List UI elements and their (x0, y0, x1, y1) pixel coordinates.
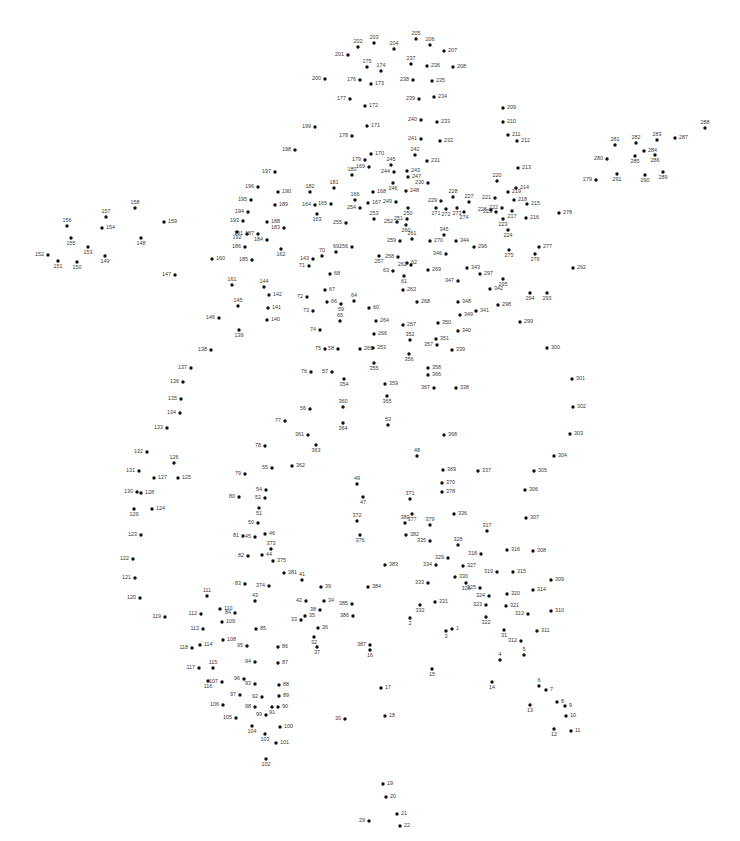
dot-marker (152, 476, 155, 479)
dot-number-label: 362 (296, 462, 305, 468)
dot-number-label: 220 (493, 172, 502, 178)
dot-number-label: 227 (465, 193, 474, 199)
dot-number-label: 80 (229, 493, 235, 499)
puzzle-dot: 133 (154, 424, 169, 430)
dot-number-label: 368 (448, 431, 457, 437)
puzzle-dot: 196 (245, 183, 260, 189)
dot-marker (454, 239, 457, 242)
dot-marker (303, 614, 306, 617)
dot-marker (571, 405, 574, 408)
puzzle-dot: 42 (296, 597, 308, 603)
dot-marker (374, 319, 377, 322)
puzzle-dot: 181 (330, 179, 339, 190)
dot-marker (220, 680, 223, 683)
puzzle-dot: 15 (429, 667, 435, 677)
dot-number-label: 113 (191, 625, 200, 631)
dot-number-label: 348 (462, 298, 471, 304)
dot-number-label: 203 (370, 34, 379, 40)
dot-marker (428, 239, 431, 242)
dot-number-label: 308 (537, 547, 546, 553)
puzzle-dot: 362 (290, 462, 305, 468)
dot-number-label: 363 (312, 447, 321, 453)
dot-number-label: 386 (340, 612, 349, 618)
dot-number-label: 261 (408, 230, 417, 236)
puzzle-dot: 302 (571, 403, 586, 409)
dot-marker (642, 149, 645, 152)
dot-number-label: 68 (334, 270, 340, 276)
dot-number-label: 342 (494, 285, 503, 291)
dot-marker (276, 190, 279, 193)
dot-number-label: 216 (530, 214, 539, 220)
dot-number-label: 337 (482, 467, 491, 473)
dot-marker (426, 268, 429, 271)
puzzle-dot: 18 (383, 712, 395, 718)
dot-marker (273, 170, 276, 173)
dot-number-label: 317 (483, 522, 492, 528)
dot-number-label: 381 (288, 569, 297, 575)
puzzle-dot: 275 (505, 248, 514, 258)
dot-marker (350, 134, 353, 137)
dot-marker (428, 43, 431, 46)
dot-number-label: 53 (385, 416, 391, 422)
puzzle-dot: 312 (508, 637, 523, 643)
puzzle-dot: 347 (445, 277, 460, 283)
puzzle-dot: 136 (170, 378, 185, 384)
puzzle-dot: 72 (297, 293, 309, 299)
dot-marker (433, 600, 436, 603)
dot-marker (249, 198, 252, 201)
dot-marker (430, 79, 433, 82)
dot-number-label: 382 (410, 531, 419, 537)
puzzle-dot: 308 (531, 547, 546, 553)
dot-number-label: 76 (301, 368, 307, 374)
dot-number-label: 355 (370, 365, 379, 371)
puzzle-dot: 328 (454, 536, 463, 547)
dot-marker (190, 646, 193, 649)
dot-number-label: 58 (328, 345, 334, 351)
dot-number-label: 268 (421, 298, 430, 304)
puzzle-dot: 31 (501, 628, 507, 638)
dot-marker (505, 592, 508, 595)
puzzle-dot: 34 (322, 597, 334, 603)
dot-marker (211, 666, 214, 669)
dot-marker (350, 602, 353, 605)
puzzle-dot: 83 (235, 580, 247, 586)
dot-marker (133, 576, 136, 579)
dot-number-label: 196 (245, 183, 254, 189)
puzzle-dot: 36 (316, 624, 328, 630)
dot-number-label: 306 (529, 486, 538, 492)
dot-number-label: 151 (54, 263, 63, 269)
puzzle-dot: 265 (358, 345, 373, 351)
dot-number-label: 349 (464, 311, 473, 317)
puzzle-dot: 85 (254, 625, 266, 631)
dot-number-label: 215 (531, 200, 540, 206)
dot-marker (456, 300, 459, 303)
dot-marker (453, 575, 456, 578)
puzzle-dot: 313 (515, 610, 530, 616)
dot-number-label: 303 (574, 430, 583, 436)
puzzle-dot: 17 (379, 684, 391, 690)
dot-number-label: 70 (319, 247, 325, 253)
puzzle-dot: 291 (613, 172, 622, 182)
dot-marker (350, 173, 353, 176)
puzzle-dot: 319 (484, 568, 499, 574)
dot-number-label: 198 (282, 146, 291, 152)
puzzle-dot: 361 (295, 431, 310, 437)
dot-marker (163, 615, 166, 618)
dot-number-label: 365 (383, 398, 392, 404)
dot-number-label: 231 (431, 157, 440, 163)
dot-number-label: 153 (84, 249, 93, 255)
dot-number-label: 32 (311, 639, 317, 645)
dot-number-label: 299 (524, 318, 533, 324)
dot-number-label: 361 (295, 431, 304, 437)
dot-marker (435, 120, 438, 123)
puzzle-dot: 290 (641, 173, 650, 183)
dot-marker (343, 717, 346, 720)
dot-marker (415, 454, 418, 457)
dot-marker (242, 677, 245, 680)
dot-number-label: 85 (260, 625, 266, 631)
puzzle-dot: 219 (506, 188, 521, 194)
puzzle-dot: 316 (505, 546, 520, 552)
dot-number-label: 274 (460, 214, 469, 220)
puzzle-dot: 58 (328, 345, 340, 351)
dot-marker (417, 97, 420, 100)
